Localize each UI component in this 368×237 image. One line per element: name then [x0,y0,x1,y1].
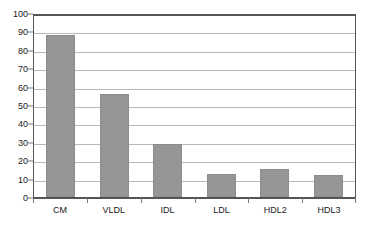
y-axis-tick-label: 60 [0,83,28,92]
bar-slot [302,15,356,197]
x-axis-tick-label: CM [33,204,87,220]
y-axis-tick-label: 100 [0,10,28,19]
x-axis-label-group: CMVLDLIDLLDLHDL2HDL3 [33,204,356,220]
x-axis-tick-mark [141,198,142,203]
bar-chart: 0102030405060708090100 CMVLDLIDLLDLHDL2H… [0,0,368,237]
bar-series [34,15,355,197]
bar[interactable] [314,175,343,197]
bar[interactable] [260,169,289,197]
bar-slot [195,15,249,197]
y-axis-tick-label: 90 [0,28,28,37]
y-axis-tick-label: 30 [0,138,28,147]
x-axis-tick-label: LDL [194,204,248,220]
y-axis-tick-label: 40 [0,120,28,129]
x-axis-tick-mark [248,198,249,203]
y-axis-tick-label: 10 [0,175,28,184]
bar[interactable] [153,144,182,197]
x-axis-tick-label: VLDL [87,204,141,220]
x-axis-tick-mark [33,198,34,203]
bar[interactable] [100,94,129,197]
x-axis-tick-mark [87,198,88,203]
y-axis-tick-label: 20 [0,157,28,166]
x-axis-tick-mark [195,198,196,203]
y-axis-label-group: 0102030405060708090100 [0,8,28,198]
bar[interactable] [46,35,75,197]
x-axis-tick-group [33,198,356,203]
bar-slot [34,15,88,197]
x-axis-tick-label: HDL3 [302,204,356,220]
x-axis-tick-mark [355,198,356,203]
y-axis-tick-label: 80 [0,46,28,55]
y-axis-tick-label: 0 [0,194,28,203]
x-axis-tick-label: HDL2 [248,204,302,220]
bar[interactable] [207,174,236,197]
x-axis-tick-label: IDL [141,204,195,220]
plot-area [33,14,356,198]
y-axis-tick-label: 50 [0,102,28,111]
y-axis-tick-label: 70 [0,65,28,74]
bar-slot [141,15,195,197]
x-axis-tick-mark [302,198,303,203]
bar-slot [88,15,142,197]
bar-slot [248,15,302,197]
